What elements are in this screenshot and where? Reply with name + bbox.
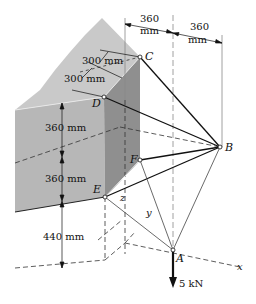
dim-height-lower: 360 mm: [45, 173, 87, 184]
label-A: A: [175, 252, 184, 265]
member-FA: [140, 160, 173, 250]
dim-height-upper: 360 mm: [45, 122, 87, 133]
dim-top-1-value: 360: [140, 13, 159, 24]
dim-top-1-unit: mm: [140, 25, 159, 36]
label-C: C: [145, 50, 154, 63]
member-BA: [173, 147, 220, 250]
joint-E: [103, 195, 107, 199]
dim-top-2-value: 360: [190, 21, 209, 32]
joint-D: [102, 95, 106, 99]
label-E: E: [92, 183, 101, 196]
joint-C: [138, 55, 142, 59]
dim-height-base: 440 mm: [43, 231, 85, 242]
label-F: F: [129, 153, 138, 166]
dim-top-2-unit: mm: [188, 34, 207, 45]
joint-A: [171, 248, 175, 252]
axis-x-label: x: [237, 261, 243, 272]
axis-y-label: y: [145, 207, 152, 218]
member-EA: [105, 197, 173, 250]
diagram-stage: C D B F E A z y x 360 mm 360 mm 300 mm 3…: [0, 0, 256, 304]
structure-diagram: C D B F E A z y x 360 mm 360 mm 300 mm 3…: [0, 0, 256, 304]
joint-B: [218, 145, 222, 149]
label-B: B: [224, 141, 233, 154]
axis-z-label: z: [119, 192, 126, 203]
cable-FB: [140, 147, 220, 160]
dim-depth-2: 300 mm: [64, 73, 106, 84]
joint-F: [138, 158, 142, 162]
label-D: D: [91, 97, 101, 110]
dim-depth-1: 300 mm: [82, 55, 124, 66]
load-label: 5 kN: [179, 278, 204, 289]
